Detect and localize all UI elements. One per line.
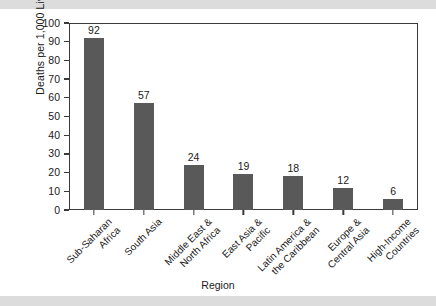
x-axis-category-labels: Sub-SaharanAfricaSouth AsiaMiddle East &… xyxy=(69,216,418,282)
bar[interactable] xyxy=(233,174,253,210)
bar-slot: 18 xyxy=(268,23,318,210)
bottom-gray-band xyxy=(0,296,436,306)
y-axis-tick-label: 40 xyxy=(48,128,60,143)
bar-value-label: 12 xyxy=(337,174,349,186)
x-axis-tick-mark xyxy=(143,210,144,215)
x-axis-title: Region xyxy=(0,279,436,291)
bar-value-label: 6 xyxy=(390,185,396,197)
bar[interactable] xyxy=(84,38,104,210)
bar[interactable] xyxy=(383,199,403,210)
bar-slot: 24 xyxy=(169,23,219,210)
y-axis-tick-label: 90 xyxy=(48,34,60,49)
x-axis-tick-mark xyxy=(93,210,94,215)
x-axis-tick-mark xyxy=(392,210,393,215)
x-axis-tick-mark xyxy=(343,210,344,215)
bar-slot: 92 xyxy=(69,23,119,210)
bar-slot: 6 xyxy=(368,23,418,210)
x-axis-category-label: Sub-SaharanAfrica xyxy=(21,216,122,306)
y-axis-tick-label: 100 xyxy=(42,16,60,31)
bar-value-label: 92 xyxy=(88,24,100,36)
y-axis-tick-label: 80 xyxy=(48,53,60,68)
bars-container: 9257241918126 xyxy=(69,23,418,210)
top-gray-band xyxy=(0,0,436,9)
y-axis-tick-label: 20 xyxy=(48,165,60,180)
bar-slot: 12 xyxy=(318,23,368,210)
y-axis-tick-label: 0 xyxy=(54,203,60,218)
y-axis-tick-label: 50 xyxy=(48,109,60,124)
y-axis-tick-label: 60 xyxy=(48,90,60,105)
bar-slot: 19 xyxy=(219,23,269,210)
x-axis-tick-mark xyxy=(293,210,294,215)
y-axis-tick-label: 70 xyxy=(48,72,60,87)
x-axis-tick-mark xyxy=(193,210,194,215)
bar[interactable] xyxy=(283,176,303,210)
bar-value-label: 57 xyxy=(138,89,150,101)
bar-slot: 57 xyxy=(119,23,169,210)
x-axis-tick-mark xyxy=(243,210,244,215)
bar-value-label: 24 xyxy=(188,151,200,163)
y-axis-tick-label: 10 xyxy=(48,184,60,199)
y-axis-tick-label: 30 xyxy=(48,146,60,161)
bar[interactable] xyxy=(134,103,154,210)
x-axis-category-label-line: Sub-Saharan xyxy=(21,216,114,306)
bar-value-label: 18 xyxy=(288,162,300,174)
bar-chart-figure: Deaths per 1,000 Live Births 10090807060… xyxy=(0,9,436,296)
bar[interactable] xyxy=(184,165,204,210)
bar-value-label: 19 xyxy=(238,160,250,172)
bar[interactable] xyxy=(333,188,353,210)
y-axis-ticks: 1009080706050403020100 xyxy=(0,23,69,210)
